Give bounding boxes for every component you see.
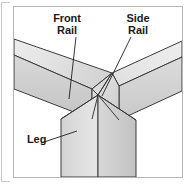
figure-root: Front Rail Side Rail Leg bbox=[0, 0, 194, 188]
label-side-rail: Side Rail bbox=[118, 12, 158, 36]
label-leg: Leg bbox=[27, 133, 53, 145]
label-front-rail: Front Rail bbox=[46, 12, 88, 36]
outer-frame-edge bbox=[1, 2, 10, 182]
